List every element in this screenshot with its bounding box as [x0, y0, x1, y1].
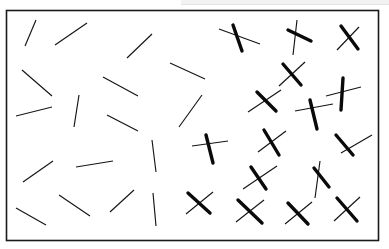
- stimulus-canvas: [0, 0, 389, 249]
- cross-thick-stroke: [341, 78, 343, 110]
- stimulus-frame: [7, 11, 379, 241]
- stimulus-page: [0, 0, 389, 249]
